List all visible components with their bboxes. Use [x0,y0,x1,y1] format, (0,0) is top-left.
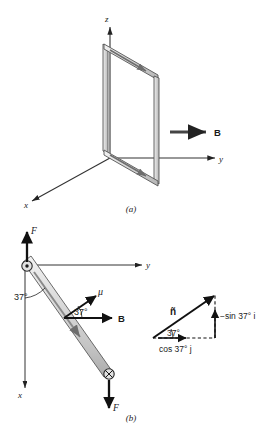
axis-y-label: y [218,154,223,164]
force-top-label: F [30,226,37,236]
physics-figure: z y x B (a) [0,0,279,427]
unit-normal-vector-arrow [153,296,214,338]
axis-x-line [32,158,110,201]
loop-current-arrow-top [110,50,146,71]
axis-x-label: x [23,200,28,210]
loop-rail-left [103,44,108,154]
panel-b-axis-x-label: x [17,390,22,400]
b-field-label: B [214,127,221,138]
unit-normal-triangle: ñ −sin 37° i cos 37° j 37° [153,294,255,354]
vertical-component-label: −sin 37° i [220,311,255,321]
rod-current-arrow [34,272,80,337]
panel-b-b-field-label: B [118,313,125,324]
panel-b: F F y x 37° μ 37° B [14,226,150,413]
panel-b-axis-y-label: y [145,260,150,270]
caption-a: (a) [126,204,137,214]
current-loop [103,44,159,186]
caption-b: (b) [126,413,137,423]
loop-rail-right [154,76,159,184]
horizontal-component-label: cos 37° j [159,344,192,354]
moment-label: μ [97,286,103,297]
unit-normal-label: ñ [170,306,176,317]
panel-a: z y x B (a) [23,14,223,214]
axis-z-label: z [104,14,109,24]
angle-moment-label: 37° [74,307,88,317]
pivot-out-of-page-dot [25,264,28,267]
triangle-angle-label: 37° [167,328,180,338]
angle-pivot-label: 37° [14,292,28,302]
force-bottom-label: F [112,403,119,413]
figure-canvas: z y x B (a) [0,0,279,427]
